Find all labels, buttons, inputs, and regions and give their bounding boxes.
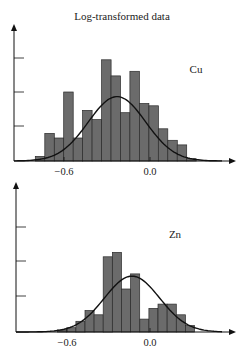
bar [64,92,73,161]
series-label: Zn [169,228,182,240]
bar [121,113,131,161]
x-tick-label: −0.6 [57,337,76,348]
bar [140,319,149,332]
bar [122,289,131,332]
histogram-zn: −0.60.0Zn [13,182,236,348]
bar [158,304,167,332]
bar [130,71,140,161]
bar [177,145,187,161]
bar [73,138,83,161]
x-tick-label: −0.6 [54,166,73,177]
y-axis-arrow-icon [13,182,19,189]
bar [111,76,121,161]
figure-title: Log-transformed data [74,10,170,22]
y-axis-arrow-icon [11,24,17,31]
bar [102,60,112,161]
series-label: Cu [190,63,203,75]
x-tick-label: 0.0 [143,166,156,177]
x-axis-arrow-icon [229,158,236,164]
histogram-cu: −0.60.0Cu [11,24,236,177]
x-tick-label: 0.0 [143,337,156,348]
bar [94,315,103,332]
histogram-figure: Log-transformed data−0.60.0Cu−0.60.0Zn [0,0,245,363]
bar [131,274,140,332]
bar [85,311,94,333]
bar [158,129,168,161]
x-axis-arrow-icon [229,329,236,335]
bar [139,104,149,162]
bar [54,138,64,161]
bar [92,120,102,161]
bar [112,252,121,332]
